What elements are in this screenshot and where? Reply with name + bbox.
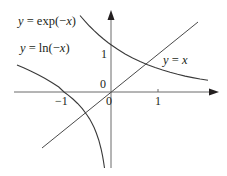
y-axis [108,10,115,168]
y-axis-arrow-icon [108,10,115,20]
curve-ln-neg-x [17,65,105,168]
label-exp-neg-x: y = exp(−x) [16,14,76,28]
origin-label-upper: 0 [100,77,106,91]
label-identity: y = x [161,53,188,67]
graph-canvas: y = exp(−x) y = ln(−x) y = x 1 0 0 −1 1 [0,0,227,176]
curve-exp-neg-x [80,16,208,81]
x-axis-arrow-icon [209,89,219,96]
function-graph-diagram: y = exp(−x) y = ln(−x) y = x 1 0 0 −1 1 [0,0,227,176]
tick-label-x-1: 1 [155,94,161,108]
origin-label-lower: 0 [106,94,112,108]
tick-label-y-1: 1 [101,47,107,61]
label-ln-neg-x: y = ln(−x) [18,41,70,55]
x-axis [14,89,219,96]
tick-label-x-neg1: −1 [55,94,68,108]
